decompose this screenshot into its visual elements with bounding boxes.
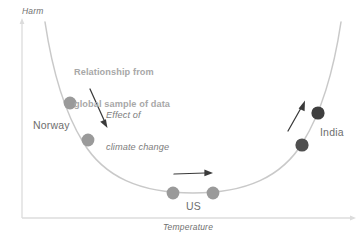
- relationship-callout-line1: Relationship from: [74, 67, 170, 78]
- data-dot-india-current[interactable]: [295, 138, 308, 151]
- arrow-up-icon: [20, 18, 25, 24]
- effect-callout-line2: climate change: [106, 142, 169, 153]
- country-label-us: US: [186, 200, 201, 212]
- effect-callout-line1: Effect of: [106, 110, 169, 121]
- data-dot-norway-shifted[interactable]: [82, 134, 95, 147]
- x-axis-label: Temperature: [163, 222, 213, 232]
- us-shift-arrow-icon: [174, 170, 213, 177]
- data-dot-us-shifted[interactable]: [207, 187, 220, 200]
- climate-harm-curve-figure: Harm Temperature Relationship from globa…: [0, 0, 363, 239]
- country-label-norway: Norway: [33, 119, 70, 131]
- country-label-india: India: [320, 126, 344, 138]
- data-dot-india-shifted[interactable]: [311, 106, 324, 119]
- data-dot-us-current[interactable]: [167, 187, 180, 200]
- effect-callout: Effect of climate change: [106, 88, 169, 175]
- arrow-right-icon: [350, 216, 356, 221]
- y-axis-label: Harm: [22, 6, 44, 16]
- india-shift-arrow-icon: [288, 101, 305, 132]
